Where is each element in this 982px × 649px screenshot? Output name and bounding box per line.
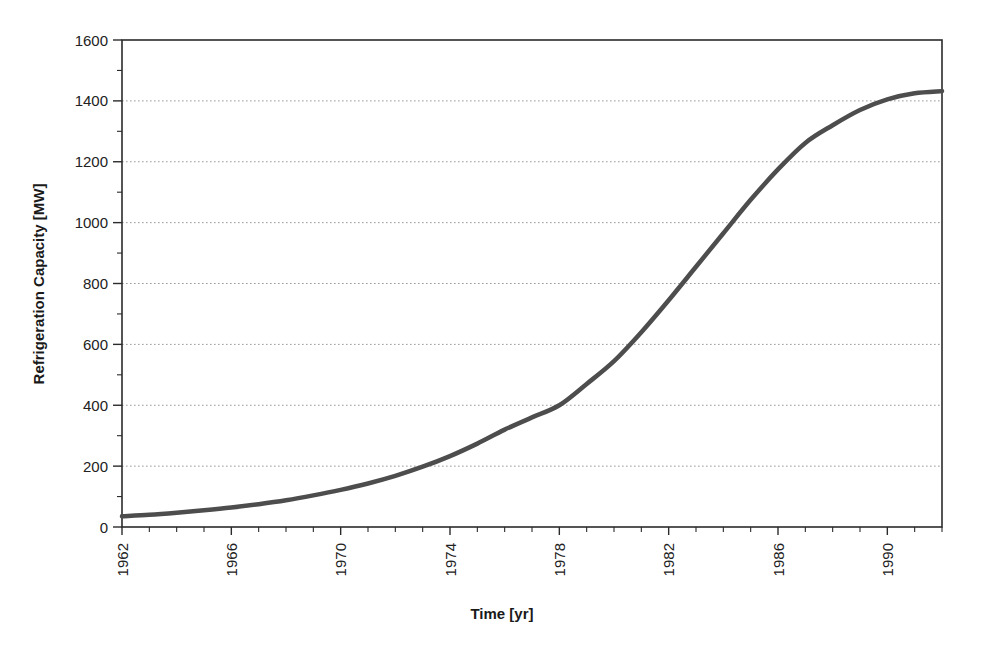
refrigeration-capacity-line-chart: 19621966197019741978198219861990 0200400… (0, 0, 982, 649)
x-tick-label-1962: 1962 (114, 543, 131, 576)
y-tick-label-1400: 1400 (75, 92, 108, 109)
x-tick-label-1966: 1966 (223, 543, 240, 576)
y-tick-label-1200: 1200 (75, 153, 108, 170)
y-tick-label-200: 200 (83, 458, 108, 475)
y-tick-label-600: 600 (83, 336, 108, 353)
y-tick-label-0: 0 (100, 519, 108, 536)
x-tick-label-1986: 1986 (770, 543, 787, 576)
chart-background (0, 0, 982, 649)
chart-container: 19621966197019741978198219861990 0200400… (0, 0, 982, 649)
y-axis-title: Refrigeration Capacity [MW] (30, 184, 47, 385)
y-tick-label-1600: 1600 (75, 32, 108, 49)
x-tick-label-1990: 1990 (879, 543, 896, 576)
x-tick-label-1978: 1978 (551, 543, 568, 576)
y-tick-label-1000: 1000 (75, 214, 108, 231)
y-tick-label-800: 800 (83, 275, 108, 292)
x-axis-title: Time [yr] (470, 605, 533, 622)
x-tick-label-1970: 1970 (332, 543, 349, 576)
y-tick-label-400: 400 (83, 397, 108, 414)
x-tick-label-1982: 1982 (660, 543, 677, 576)
x-tick-label-1974: 1974 (442, 543, 459, 576)
